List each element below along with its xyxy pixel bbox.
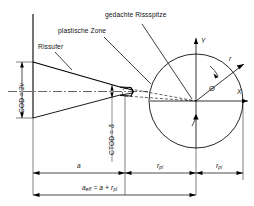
label-ctod-var: δ bbox=[108, 124, 115, 128]
dim-label-rpl-2: rpl bbox=[216, 163, 222, 171]
label-cod-var: v bbox=[18, 83, 25, 86]
formula-rest: = a + r bbox=[91, 184, 113, 191]
virtual-crack-wedge-lower bbox=[125, 96, 196, 101]
dim-aeff-arrow-right bbox=[190, 193, 197, 197]
dim-rpl1-arrow-left bbox=[125, 171, 132, 175]
cod-arrow-bottom bbox=[20, 113, 24, 118]
label-cod: COD = 2v bbox=[19, 83, 26, 113]
fracture-mechanics-figure: Rissufer plastische Zone gedachte Risssp… bbox=[0, 0, 254, 206]
label-plastische-zone: plastische Zone bbox=[58, 28, 106, 35]
leader-gedachte-rissspitze bbox=[142, 24, 192, 99]
dim-rpl1-arrow-right bbox=[190, 171, 197, 175]
label-axis-x: X bbox=[237, 89, 242, 96]
dim-label-a: a bbox=[77, 163, 81, 170]
ctod-arrow-top bbox=[110, 86, 113, 91]
label-ctod: CTOD = δ bbox=[109, 124, 116, 155]
label-gedachte-rissspitze: gedachte Rissspitze bbox=[105, 12, 167, 19]
label-rissufer: Rissufer bbox=[38, 44, 63, 51]
dim-label-rpl-2-sub: pl bbox=[218, 165, 222, 170]
dim-label-rpl-1-sub: pl bbox=[159, 165, 163, 170]
leader-plastische-zone bbox=[104, 37, 151, 84]
dim-a-arrow-right bbox=[119, 171, 126, 175]
dim-rpl2-arrow-left bbox=[196, 171, 203, 175]
dim-label-aeff-formula: aeff = a + rpl bbox=[82, 185, 117, 193]
formula-rest-sub: pl bbox=[113, 187, 117, 192]
crack-flank-lower bbox=[33, 93, 133, 118]
label-radius-ray: r bbox=[229, 56, 231, 63]
label-axis-y: Y bbox=[201, 38, 206, 45]
virtual-crack-wedge-upper bbox=[125, 88, 196, 101]
label-cod-text: COD = 2 bbox=[18, 86, 25, 113]
dim-rpl2-arrow-right bbox=[237, 171, 244, 175]
dim-a-arrow-left bbox=[33, 171, 40, 175]
dim-aeff-arrow-left bbox=[33, 193, 40, 197]
leader-rissufer bbox=[55, 52, 72, 70]
dim-label-rpl-1: rpl bbox=[157, 163, 163, 171]
cod-arrow-top bbox=[20, 62, 24, 67]
figure-drawing bbox=[0, 0, 254, 206]
label-ctod-text: CTOD = bbox=[108, 128, 115, 155]
theta-arc-lower-arrowhead bbox=[193, 114, 199, 120]
label-theta: Θ bbox=[209, 85, 215, 92]
crack-flank-upper bbox=[33, 62, 133, 90]
axis-y-arrowhead bbox=[194, 38, 198, 44]
